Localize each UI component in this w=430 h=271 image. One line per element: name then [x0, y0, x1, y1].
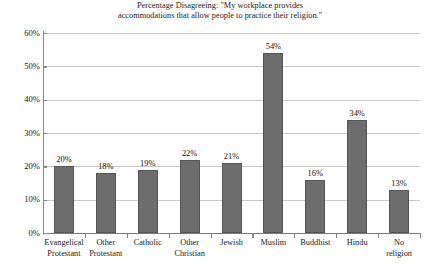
y-axis-tick-mark	[43, 100, 47, 101]
y-axis-tick-mark	[43, 166, 47, 167]
chart-title-line-2: accommodations that allow people to prac…	[55, 11, 385, 21]
gridline	[43, 33, 420, 34]
bar	[389, 190, 409, 233]
chart-title-line-1: Percentage Disagreeing: "My workplace pr…	[55, 1, 385, 11]
x-axis-category-label-line: No	[372, 238, 426, 249]
y-axis-tick-label: 40%	[4, 95, 40, 104]
bar	[305, 180, 325, 233]
bar	[347, 120, 367, 233]
bar	[222, 163, 242, 233]
y-axis-tick-mark	[43, 233, 47, 234]
bar-value-label: 16%	[295, 169, 335, 178]
bar-value-label: 18%	[86, 162, 126, 171]
bar-value-label: 13%	[379, 179, 419, 188]
bar-value-label: 20%	[44, 155, 84, 164]
bar-value-label: 19%	[128, 159, 168, 168]
x-axis-tick-mark	[420, 234, 421, 238]
x-axis-category-label-line: Christian	[163, 249, 217, 260]
y-axis-tick-mark	[43, 33, 47, 34]
bar	[180, 160, 200, 233]
bar-value-label: 22%	[170, 149, 210, 158]
bar	[263, 53, 283, 233]
y-axis-tick-label: 20%	[4, 162, 40, 171]
x-axis-line	[43, 233, 421, 234]
bar-value-label: 54%	[253, 42, 293, 51]
y-axis-tick-label: 50%	[4, 62, 40, 71]
y-axis-tick-label: 0%	[4, 229, 40, 238]
bar	[54, 166, 74, 233]
y-axis-tick-label: 10%	[4, 195, 40, 204]
y-axis-tick-label: 60%	[4, 29, 40, 38]
gridline	[43, 66, 420, 67]
y-axis-tick-label: 30%	[4, 129, 40, 138]
gridline	[43, 100, 420, 101]
y-axis-tick-mark	[43, 66, 47, 67]
bar-chart: Percentage Disagreeing: "My workplace pr…	[0, 0, 430, 271]
y-axis-tick-mark	[43, 200, 47, 201]
bar-value-label: 21%	[212, 152, 252, 161]
plot-area	[43, 33, 420, 233]
x-axis-category-label-line: Protestant	[79, 249, 133, 260]
chart-title: Percentage Disagreeing: "My workplace pr…	[55, 1, 385, 22]
y-axis: 60%50%40%30%20%10%0%	[0, 0, 40, 271]
y-axis-tick-mark	[43, 133, 47, 134]
x-axis-category-label-line: religion	[372, 249, 426, 260]
bar-value-label: 34%	[337, 109, 377, 118]
bar	[96, 173, 116, 233]
x-axis-category-label: Noreligion	[372, 238, 426, 259]
bar	[138, 170, 158, 233]
